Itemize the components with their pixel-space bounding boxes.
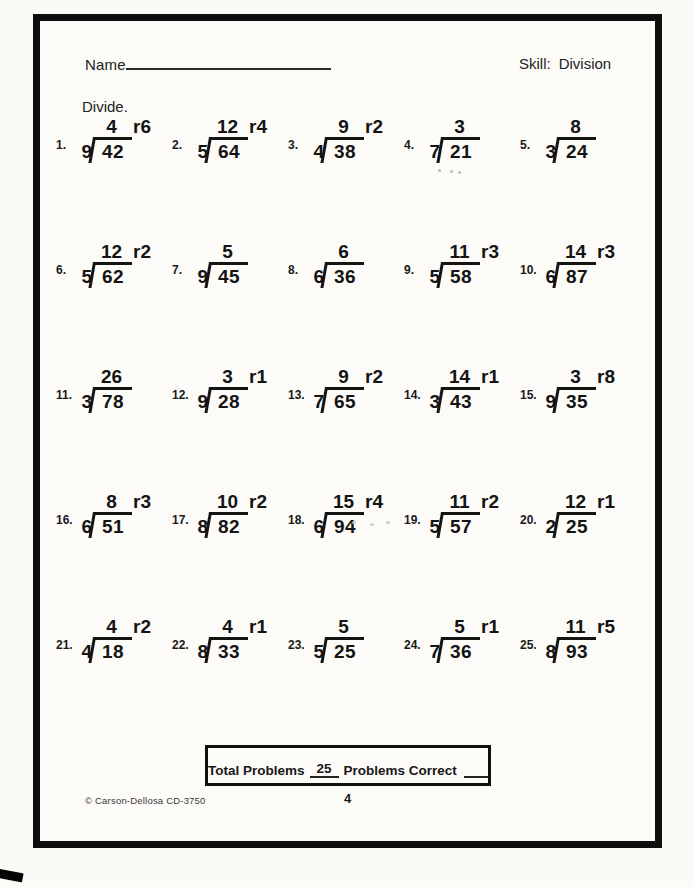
problem-number: 12. [172,388,192,402]
quotient: 4 [106,116,117,137]
problem-number: 7. [172,263,192,277]
dividend: 36 [442,637,480,665]
quotient: 26 [101,366,122,387]
remainder: r1 [249,367,267,387]
answer-row: 10 r2 [209,492,246,512]
quotient: 12 [217,116,238,137]
answer-row: 15 r4 [325,492,362,512]
problem-number: 17. [172,513,192,527]
problem-number: 2. [172,138,192,152]
problems-grid: 1. 4 r6 9 42 2. 12 r4 5 64 3. [56,112,636,737]
division-expression: 5 r1 7 36 [425,617,480,665]
answer-row: 8 r3 [93,492,130,512]
remainder: r3 [133,492,151,512]
division-expression: 5 5 25 [309,617,364,665]
division-problem: 20. 12 r1 2 25 [520,487,636,612]
dividend: 36 [326,262,364,290]
problem-number: 14. [404,388,424,402]
remainder: r8 [597,367,615,387]
division-bracket: 8 33 [193,637,248,665]
answer-row: 5 [325,617,362,637]
remainder: r2 [365,117,383,137]
answer-row: 11 r3 [441,242,478,262]
division-expression: 11 r2 5 57 [425,492,480,540]
remainder: r1 [481,617,499,637]
division-bracket: 3 24 [541,137,596,165]
quotient: 4 [222,616,233,637]
division-bracket: 9 45 [193,262,248,290]
quotient: 6 [338,241,349,262]
division-problem: 9. 11 r3 5 58 [404,237,520,362]
dividend: 94 [326,512,364,540]
division-problem: 19. 11 r2 5 57 [404,487,520,612]
quotient: 3 [570,366,581,387]
division-expression: 3 r8 9 35 [541,367,596,415]
quotient: 3 [454,116,465,137]
division-expression: 15 r4 6 94 [309,492,364,540]
problems-correct-blank [464,764,488,778]
dividend: 87 [558,262,596,290]
name-blank-line [126,55,331,70]
division-bracket: 5 62 [77,262,132,290]
answer-row: 12 r4 [209,117,246,137]
problem-number: 25. [520,638,540,652]
quotient: 14 [449,366,470,387]
division-bracket: 4 38 [309,137,364,165]
division-problem: 8. 6 6 36 [288,237,404,362]
division-expression: 3 r1 9 28 [193,367,248,415]
answer-row: 12 r1 [557,492,594,512]
answer-row: 14 r3 [557,242,594,262]
dividend: 64 [210,137,248,165]
division-bracket: 6 36 [309,262,364,290]
division-expression: 9 r2 7 65 [309,367,364,415]
dividend: 21 [442,137,480,165]
division-expression: 11 r3 5 58 [425,242,480,290]
problem-number: 15. [520,388,540,402]
quotient: 8 [106,491,117,512]
quotient: 11 [449,491,469,512]
answer-row: 11 r2 [441,492,478,512]
quotient: 10 [217,491,238,512]
remainder: r4 [365,492,383,512]
remainder: r3 [597,242,615,262]
division-expression: 10 r2 8 82 [193,492,248,540]
division-problem: 24. 5 r1 7 36 [404,612,520,737]
division-expression: 3 7 21 [425,117,480,165]
division-bracket: 5 57 [425,512,480,540]
division-problem: 21. 4 r2 4 18 [56,612,172,737]
problems-correct-label: Problems Correct [344,763,457,778]
division-problem: 15. 3 r8 9 35 [520,362,636,487]
division-problem: 2. 12 r4 5 64 [172,112,288,237]
division-problem: 18. 15 r4 6 94 [288,487,404,612]
remainder: r3 [481,242,499,262]
answer-row: 4 r6 [93,117,130,137]
problem-number: 24. [404,638,424,652]
quotient: 8 [570,116,581,137]
problem-number: 16. [56,513,76,527]
problem-number: 5. [520,138,540,152]
problem-number: 3. [288,138,308,152]
answer-row: 11 r5 [557,617,594,637]
dividend: 33 [210,637,248,665]
remainder: r2 [133,242,151,262]
answer-row: 12 r2 [93,242,130,262]
dividend: 35 [558,387,596,415]
division-expression: 4 r2 4 18 [77,617,132,665]
quotient: 11 [565,616,585,637]
dividend: 93 [558,637,596,665]
dividend: 45 [210,262,248,290]
dividend: 57 [442,512,480,540]
division-bracket: 6 94 [309,512,364,540]
quotient: 5 [338,616,349,637]
dividend: 42 [94,137,132,165]
division-problem: 3. 9 r2 4 38 [288,112,404,237]
dividend: 43 [442,387,480,415]
answer-row: 26 [93,367,130,387]
dividend: 18 [94,637,132,665]
division-expression: 9 r2 4 38 [309,117,364,165]
division-expression: 8 3 24 [541,117,596,165]
division-bracket: 5 25 [309,637,364,665]
division-problem: 25. 11 r5 8 93 [520,612,636,737]
division-bracket: 3 43 [425,387,480,415]
problem-number: 19. [404,513,424,527]
